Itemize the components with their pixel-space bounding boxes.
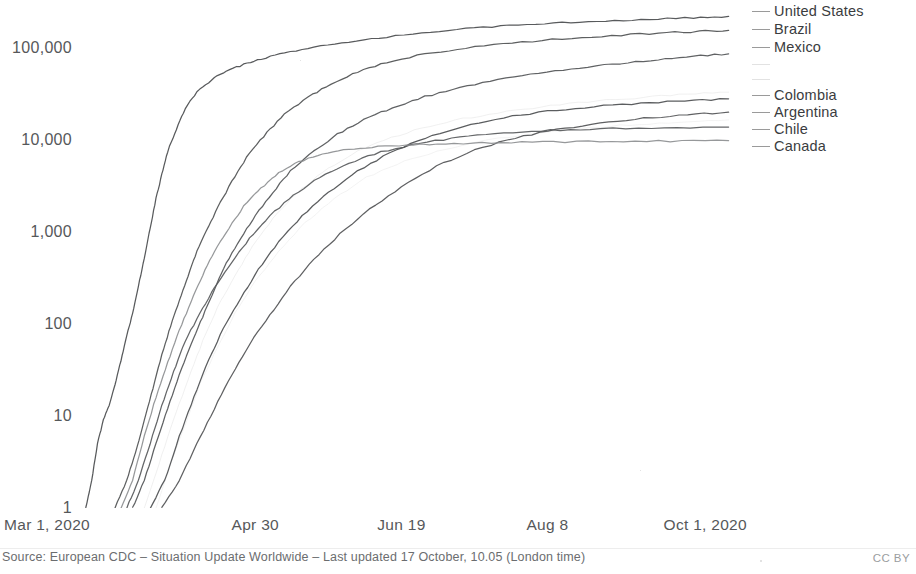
series-line [133, 54, 729, 507]
legend-leader-line [752, 146, 770, 147]
legend-item-colombia[interactable]: Colombia [774, 87, 837, 103]
series-line [144, 92, 728, 508]
scan-artifact [300, 60, 301, 61]
legend-item-illegible[interactable] [774, 56, 808, 72]
legend-leader-line [752, 79, 770, 80]
scan-artifact [760, 560, 762, 562]
chart-footer: Source: European CDC – Situation Update … [0, 548, 916, 574]
series-line [121, 140, 729, 508]
legend-leader-line [752, 11, 770, 12]
series-line [127, 127, 729, 508]
series-line [150, 99, 729, 508]
legend-leader-line [752, 129, 770, 130]
y-axis: 1101001,00010,000100,000 [0, 0, 72, 512]
y-tick-label: 100 [44, 315, 72, 333]
series-line [115, 30, 729, 507]
legend: United StatesBrazilMexico ColombiaArgent… [752, 0, 916, 160]
y-tick-label: 10,000 [21, 131, 72, 149]
scan-artifact [640, 470, 641, 471]
series-line [162, 112, 729, 507]
legend-item-mexico[interactable]: Mexico [774, 39, 821, 55]
legend-item-brazil[interactable]: Brazil [774, 21, 811, 37]
plot-area [80, 4, 752, 508]
legend-item-illegible[interactable] [774, 71, 808, 87]
source-note: Source: European CDC – Situation Update … [2, 550, 585, 564]
x-tick-label: Oct 1, 2020 [664, 516, 747, 534]
legend-item-argentina[interactable]: Argentina [774, 104, 838, 120]
series-line [86, 16, 729, 507]
series-canvas [80, 4, 752, 508]
legend-leader-line [752, 64, 770, 65]
series-line [156, 120, 729, 508]
license-label: CC BY [873, 552, 910, 564]
x-tick-label: Jun 19 [377, 516, 425, 534]
y-tick-label: 100,000 [12, 39, 72, 57]
legend-leader-line [752, 29, 770, 30]
legend-leader-line [752, 112, 770, 113]
x-tick-label: Apr 30 [232, 516, 279, 534]
legend-leader-line [752, 95, 770, 96]
y-tick-label: 1,000 [30, 223, 72, 241]
legend-item-chile[interactable]: Chile [774, 121, 808, 137]
legend-item-canada[interactable]: Canada [774, 138, 826, 154]
x-tick-label: Mar 1, 2020 [4, 516, 90, 534]
legend-item-united-states[interactable]: United States [774, 3, 864, 19]
x-tick-label: Aug 8 [526, 516, 568, 534]
footer-divider [0, 548, 916, 549]
legend-leader-line [752, 47, 770, 48]
covid-cumulative-cases-chart: 1101001,00010,000100,000 Mar 1, 2020Apr … [0, 0, 916, 574]
x-axis: Mar 1, 2020Apr 30Jun 19Aug 8Oct 1, 2020 [0, 512, 916, 538]
y-tick-label: 10 [54, 407, 72, 425]
